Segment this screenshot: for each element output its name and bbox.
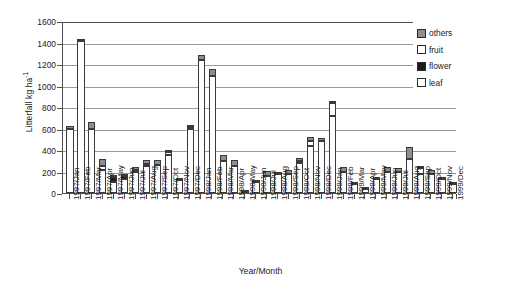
- x-tick-mark-1997-Nov: [178, 194, 179, 199]
- x-tick-mark-1997-Aug: [146, 194, 147, 199]
- bar-segment-fruit: [329, 103, 336, 115]
- x-tick-mark-1999-May: [375, 194, 376, 199]
- x-tick-mark-1999-Aug: [408, 194, 409, 199]
- x-tick-mark-1999-Apr: [364, 194, 365, 199]
- x-tick-mark-1999-Nov: [441, 194, 442, 199]
- y-axis-title-text: Litterfall kg ha-1: [24, 72, 34, 133]
- chart-root: Litterfall kg ha-1 020040060080010001200…: [0, 0, 521, 284]
- legend-item-fruit: fruit: [417, 42, 483, 59]
- legend-label-fruit: fruit: [429, 45, 443, 55]
- x-tick-mark-1997-Mar: [91, 194, 92, 199]
- y-tick-label-1200: 1200: [22, 61, 56, 69]
- bar-segment-others: [143, 160, 150, 164]
- bar-segment-others: [406, 147, 413, 158]
- x-tick-mark-1998-May: [244, 194, 245, 199]
- y-axis-unit-exponent: -1: [22, 72, 29, 78]
- legend-label-flower: flower: [429, 61, 451, 71]
- y-tick-label-0: 0: [22, 190, 56, 198]
- x-tick-mark-1998-Sep: [288, 194, 289, 199]
- x-tick-mark-1999-Feb: [343, 194, 344, 199]
- bar-segment-others: [165, 150, 172, 152]
- y-tick-label-600: 600: [22, 126, 56, 134]
- bar-segment-others: [66, 126, 73, 129]
- x-tick-mark-1997-Jan: [69, 194, 70, 199]
- x-tick-mark-1998-Nov: [310, 194, 311, 199]
- x-tick-mark-1998-Mar: [222, 194, 223, 199]
- bar-segment-others: [307, 137, 314, 141]
- bar-segment-others: [154, 160, 161, 165]
- x-tick-mark-1999-Dec: [452, 194, 453, 199]
- y-tick-label-400: 400: [22, 147, 56, 155]
- y-tick-label-1400: 1400: [22, 40, 56, 48]
- x-tick-mark-1997-Jul: [135, 194, 136, 199]
- bar-segment-others: [231, 160, 238, 166]
- legend-item-flower: flower: [417, 58, 483, 75]
- bar-segment-others: [99, 159, 106, 165]
- bar-segment-others: [88, 122, 95, 128]
- x-tick-mark-1998-Feb: [211, 194, 212, 199]
- legend-swatch-fruit-icon: [417, 45, 426, 54]
- bar-segment-others: [318, 138, 325, 141]
- x-tick-mark-1997-Sep: [157, 194, 158, 199]
- x-tick-mark-1997-May: [113, 194, 114, 199]
- x-tick-mark-1997-Jun: [124, 194, 125, 199]
- legend-swatch-flower-icon: [417, 62, 426, 71]
- x-tick-mark-1997-Feb: [80, 194, 81, 199]
- bar-segment-others: [209, 69, 216, 75]
- y-tick-label-1600: 1600: [22, 18, 56, 26]
- x-tick-mark-1999-Oct: [430, 194, 431, 199]
- x-tick-mark-1999-Jul: [397, 194, 398, 199]
- x-tick-mark-1998-Apr: [233, 194, 234, 199]
- x-tick-mark-1999-Sep: [419, 194, 420, 199]
- x-tick-mark-1998-Dec: [321, 194, 322, 199]
- x-tick-mark-1999-Jun: [386, 194, 387, 199]
- x-tick-mark-1999-Jan: [332, 194, 333, 199]
- bar-segment-others: [77, 39, 84, 41]
- bar-segment-others: [296, 158, 303, 162]
- y-tick-label-800: 800: [22, 104, 56, 112]
- bar-segment-others: [187, 125, 194, 127]
- legend-label-others: others: [429, 28, 452, 38]
- legend-item-others: others: [417, 25, 483, 42]
- y-tick-label-1000: 1000: [22, 83, 56, 91]
- x-tick-mark-1998-Oct: [299, 194, 300, 199]
- x-tick-mark-1997-Apr: [102, 194, 103, 199]
- x-tick-mark-1999-Mar: [354, 194, 355, 199]
- legend-item-leaf: leaf: [417, 75, 483, 92]
- x-axis-title: Year/Month: [0, 266, 521, 276]
- x-tick-mark-1997-Dec: [189, 194, 190, 199]
- y-tick-mark-0: [57, 194, 62, 195]
- x-tick-mark-1998-Aug: [277, 194, 278, 199]
- x-tick-mark-1998-Jan: [200, 194, 201, 199]
- x-tick-mark-1998-Jul: [266, 194, 267, 199]
- chart-legend: others fruit flower leaf: [413, 22, 487, 94]
- x-tick-mark-end: [456, 194, 457, 199]
- y-tick-label-200: 200: [22, 169, 56, 177]
- bar-segment-fruit: [296, 161, 303, 163]
- bar-segment-others: [198, 55, 205, 60]
- bar-segment-others: [220, 155, 227, 161]
- bar-segment-fruit: [165, 152, 172, 155]
- bar-segment-fruit: [307, 141, 314, 146]
- x-tick-mark-1998-Jun: [255, 194, 256, 199]
- x-tick-mark-1997-Oct: [167, 194, 168, 199]
- legend-swatch-others-icon: [417, 29, 426, 38]
- legend-label-leaf: leaf: [429, 78, 443, 88]
- bar-segment-others: [329, 101, 336, 104]
- legend-swatch-leaf-icon: [417, 78, 426, 87]
